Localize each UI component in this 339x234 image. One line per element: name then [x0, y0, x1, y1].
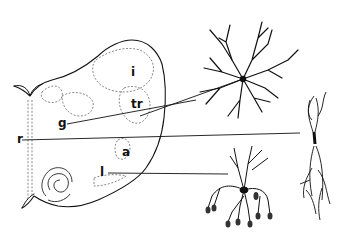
label-r: r: [17, 133, 23, 145]
stellate-neuron: [200, 22, 298, 118]
leader-line-l: [108, 173, 228, 174]
label-l: l: [100, 166, 104, 178]
bipolar-neuron: [300, 92, 330, 220]
tufted-neuron: [206, 146, 273, 228]
neuroanatomy-figure: i tr g r a l: [0, 0, 339, 234]
label-g: g: [58, 117, 67, 129]
figure-drawing: [0, 0, 339, 234]
label-tr: tr: [131, 98, 143, 110]
label-a: a: [122, 146, 130, 158]
label-i: i: [131, 66, 135, 78]
section-outline: [14, 40, 165, 208]
